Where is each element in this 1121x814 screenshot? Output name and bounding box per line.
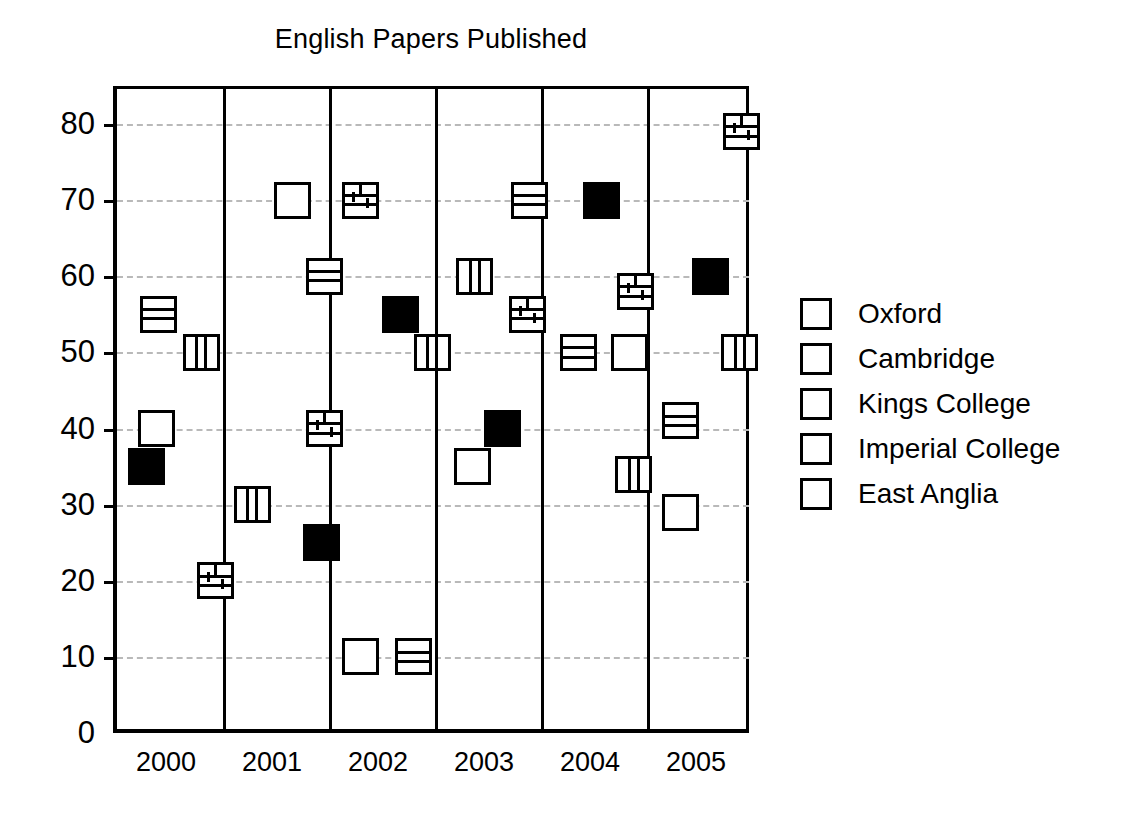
y-tick-label-0: 0 bbox=[25, 717, 95, 748]
gridline-10 bbox=[117, 657, 749, 659]
data-marker bbox=[617, 273, 654, 310]
category-separator-2003 bbox=[435, 86, 438, 729]
data-marker bbox=[723, 113, 760, 150]
data-marker bbox=[692, 258, 729, 295]
data-marker bbox=[662, 402, 699, 439]
data-marker bbox=[183, 334, 220, 371]
plot-inner bbox=[117, 86, 749, 729]
data-marker bbox=[414, 334, 451, 371]
legend-label: Cambridge bbox=[858, 343, 995, 375]
data-marker bbox=[615, 456, 652, 493]
legend-item-east-anglia[interactable]: East Anglia bbox=[800, 471, 1100, 516]
y-tick-label-10: 10 bbox=[25, 641, 95, 672]
chart-figure: English Papers Published 010203040506070… bbox=[0, 0, 1121, 814]
legend-label: East Anglia bbox=[858, 478, 998, 510]
legend-swatch-icon-vertical-stripe-square bbox=[800, 433, 832, 465]
chart-title: English Papers Published bbox=[113, 24, 749, 55]
data-marker bbox=[306, 258, 343, 295]
data-marker bbox=[583, 182, 620, 219]
x-tick-label-2002: 2002 bbox=[318, 747, 438, 778]
legend-item-oxford[interactable]: Oxford bbox=[800, 291, 1100, 336]
data-marker bbox=[484, 410, 521, 447]
y-tick-mark-50 bbox=[104, 352, 113, 355]
gridline-70 bbox=[117, 200, 749, 202]
legend-item-kings-college[interactable]: Kings College bbox=[800, 381, 1100, 426]
y-tick-label-40: 40 bbox=[25, 413, 95, 444]
data-marker bbox=[454, 448, 491, 485]
legend-item-imperial-college[interactable]: Imperial College bbox=[800, 426, 1100, 471]
data-marker bbox=[456, 258, 493, 295]
plot-area bbox=[113, 86, 749, 733]
category-separator-2001 bbox=[223, 86, 226, 729]
legend-swatch-icon-brick-pattern-square bbox=[800, 388, 832, 420]
plot-frame-top-border bbox=[117, 86, 749, 89]
data-marker bbox=[234, 486, 271, 523]
data-marker bbox=[138, 410, 175, 447]
y-tick-label-80: 80 bbox=[25, 108, 95, 139]
data-marker bbox=[342, 638, 379, 675]
data-marker bbox=[140, 296, 177, 333]
y-tick-mark-10 bbox=[104, 657, 113, 660]
data-marker bbox=[306, 410, 343, 447]
data-marker bbox=[662, 494, 699, 531]
legend-label: Kings College bbox=[858, 388, 1031, 420]
y-tick-mark-80 bbox=[104, 124, 113, 127]
y-tick-mark-60 bbox=[104, 276, 113, 279]
plot-frame-right-border bbox=[746, 86, 749, 729]
data-marker bbox=[509, 296, 546, 333]
legend-label: Imperial College bbox=[858, 433, 1060, 465]
y-tick-label-70: 70 bbox=[25, 184, 95, 215]
legend-item-cambridge[interactable]: Cambridge bbox=[800, 336, 1100, 381]
y-tick-label-50: 50 bbox=[25, 336, 95, 367]
y-tick-mark-40 bbox=[104, 429, 113, 432]
data-marker bbox=[303, 524, 340, 561]
category-separator-2002 bbox=[329, 86, 332, 729]
data-marker bbox=[197, 562, 234, 599]
legend-label: Oxford bbox=[858, 298, 942, 330]
y-tick-label-60: 60 bbox=[25, 260, 95, 291]
x-tick-label-2004: 2004 bbox=[530, 747, 650, 778]
data-marker bbox=[382, 296, 419, 333]
data-marker bbox=[128, 448, 165, 485]
data-marker bbox=[611, 334, 648, 371]
category-separator-2005 bbox=[647, 86, 650, 729]
x-tick-label-2005: 2005 bbox=[636, 747, 756, 778]
y-tick-label-30: 30 bbox=[25, 489, 95, 520]
x-tick-label-2000: 2000 bbox=[106, 747, 226, 778]
chart-legend: OxfordCambridgeKings CollegeImperial Col… bbox=[800, 291, 1100, 516]
data-marker bbox=[274, 182, 311, 219]
data-marker bbox=[560, 334, 597, 371]
data-marker bbox=[342, 182, 379, 219]
legend-swatch-icon-solid-black-square bbox=[800, 298, 832, 330]
data-marker bbox=[511, 182, 548, 219]
y-tick-mark-70 bbox=[104, 200, 113, 203]
y-tick-mark-20 bbox=[104, 581, 113, 584]
x-tick-label-2001: 2001 bbox=[212, 747, 332, 778]
legend-swatch-icon-horizontal-stripe-square bbox=[800, 478, 832, 510]
legend-swatch-icon-empty-white-square bbox=[800, 343, 832, 375]
y-tick-mark-30 bbox=[104, 505, 113, 508]
y-tick-label-20: 20 bbox=[25, 565, 95, 596]
gridline-80 bbox=[117, 124, 749, 126]
gridline-40 bbox=[117, 429, 749, 431]
data-marker bbox=[395, 638, 432, 675]
x-tick-label-2003: 2003 bbox=[424, 747, 544, 778]
data-marker bbox=[721, 334, 758, 371]
gridline-30 bbox=[117, 505, 749, 507]
